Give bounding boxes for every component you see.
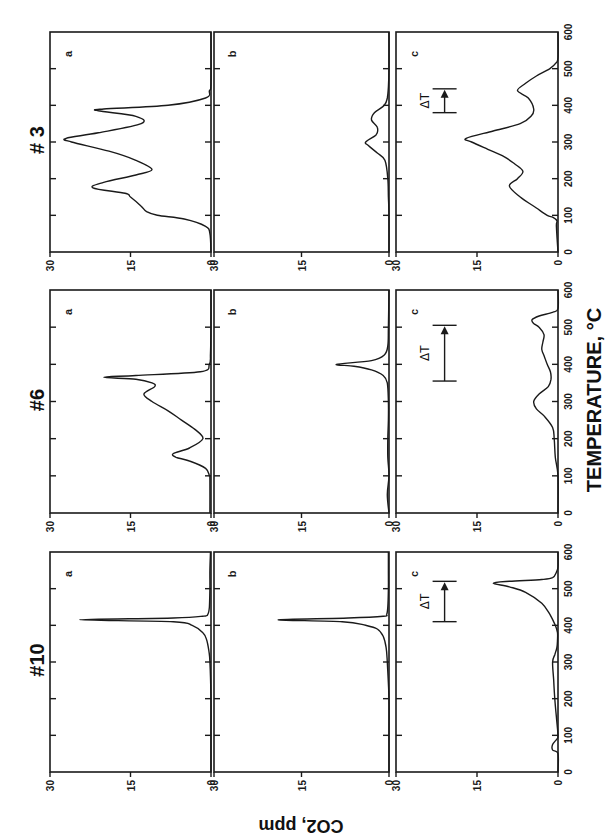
delta-t-arrow-icon	[441, 582, 449, 590]
x-tick-label: 600	[563, 281, 574, 298]
delta-t-label: ΔT	[418, 92, 432, 108]
co2-curve-6-b	[336, 290, 389, 513]
x-tick-label: 500	[563, 580, 574, 597]
y-tick-label: 15	[126, 260, 137, 272]
panel-letter-3-b: b	[226, 50, 238, 57]
y-tick-label: 15	[126, 521, 137, 533]
x-tick-label: 500	[563, 318, 574, 335]
x-axis-title: TEMPERATURE, °C	[583, 308, 605, 492]
y-tick-label: 30	[45, 260, 56, 272]
x-tick-label: 400	[563, 617, 574, 634]
x-tick-label: 200	[563, 430, 574, 447]
y-tick-label: 15	[297, 521, 308, 533]
y-tick-label: 30	[45, 780, 56, 792]
y-tick-label: 30	[209, 780, 220, 792]
panel-letter-10-b: b	[226, 570, 238, 577]
y-tick-label: 30	[209, 521, 220, 533]
x-tick-label: 0	[563, 769, 574, 775]
x-tick-label: 600	[563, 23, 574, 40]
y-tick-label: 30	[391, 780, 402, 792]
panel-letter-10-c: c	[408, 571, 420, 577]
y-tick-label: 0	[553, 780, 564, 786]
co2-curve-10-a	[80, 552, 212, 772]
sample-title-10: #10	[26, 643, 48, 676]
co2-curve-10-b	[278, 552, 389, 772]
y-tick-label: 15	[297, 260, 308, 272]
y-tick-label: 15	[472, 780, 483, 792]
y-tick-label: 15	[472, 521, 483, 533]
y-tick-label: 15	[297, 780, 308, 792]
panel-frame-3-b	[214, 32, 389, 252]
y-tick-label: 15	[126, 780, 137, 792]
x-tick-label: 500	[563, 60, 574, 77]
panel-letter-6-a: a	[62, 308, 74, 315]
y-tick-label: 30	[391, 521, 402, 533]
panel-letter-3-c: c	[408, 51, 420, 57]
delta-t-label: ΔT	[418, 593, 432, 609]
co2-curve-6-a	[104, 290, 211, 513]
x-tick-label: 0	[563, 249, 574, 255]
co2-curve-10-c	[493, 552, 558, 772]
panel-frame-10-b	[214, 552, 389, 772]
x-tick-label: 100	[563, 727, 574, 744]
delta-t-arrow-icon	[441, 90, 449, 98]
figure-canvas: 01530a01530b015300100200300400500600cΔT0…	[0, 0, 611, 838]
panel-letter-6-c: c	[408, 309, 420, 315]
co2-curve-3-c	[465, 32, 558, 252]
x-tick-label: 300	[563, 133, 574, 150]
x-tick-label: 200	[563, 690, 574, 707]
sample-title-3: # 3	[26, 126, 48, 154]
x-tick-label: 100	[563, 467, 574, 484]
panel-frame-6-a	[50, 290, 211, 513]
y-tick-label: 30	[209, 260, 220, 272]
x-tick-label: 300	[563, 653, 574, 670]
y-tick-label: 30	[45, 521, 56, 533]
y-tick-label: 0	[553, 521, 564, 527]
x-tick-label: 400	[563, 97, 574, 114]
x-tick-label: 200	[563, 170, 574, 187]
panel-letter-10-a: a	[62, 570, 74, 577]
x-tick-label: 600	[563, 543, 574, 560]
x-tick-label: 100	[563, 207, 574, 224]
panel-frame-3-c	[396, 32, 558, 252]
x-tick-label: 0	[563, 510, 574, 516]
y-tick-label: 15	[472, 260, 483, 272]
panel-frame-10-a	[50, 552, 211, 772]
y-tick-label: 0	[553, 260, 564, 266]
x-tick-label: 400	[563, 356, 574, 373]
delta-t-arrow-icon	[441, 326, 449, 334]
sample-title-6: #6	[26, 389, 48, 411]
y-tick-label: 30	[391, 260, 402, 272]
panel-frame-6-b	[214, 290, 389, 513]
co2-curve-3-a	[64, 32, 211, 252]
panel-grid: 01530a01530b015300100200300400500600cΔT0…	[45, 23, 574, 791]
panel-letter-3-a: a	[62, 50, 74, 57]
panel-frame-10-c	[396, 552, 558, 772]
delta-t-label: ΔT	[418, 345, 432, 361]
x-tick-label: 300	[563, 393, 574, 410]
panel-letter-6-b: b	[226, 308, 238, 315]
y-axis-title: CO2, ppm	[258, 816, 343, 836]
